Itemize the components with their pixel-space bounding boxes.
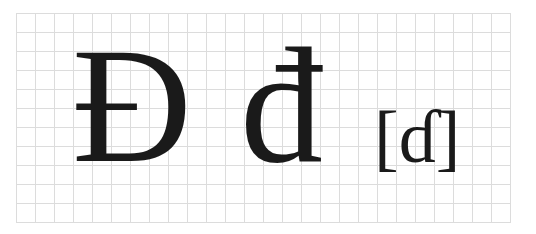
lowercase-d-stroke-glyph: đ bbox=[240, 22, 323, 188]
ipa-transcription: [ɗ] bbox=[374, 100, 460, 174]
uppercase-d-stroke-glyph: Đ bbox=[72, 22, 192, 188]
